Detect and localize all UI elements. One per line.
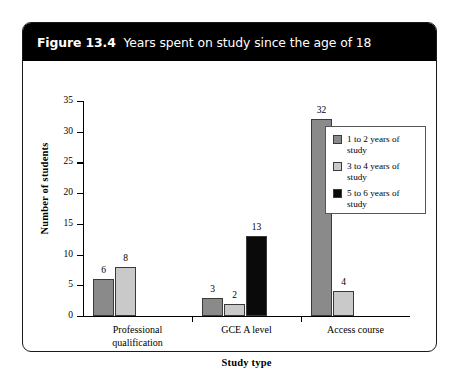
legend-label-line: 5 to 6 years of [347, 188, 421, 199]
y-axis-tick [77, 193, 84, 194]
x-axis-tick [301, 316, 302, 322]
x-category-label: Access course [301, 324, 410, 337]
legend-label: 1 to 2 years ofstudy [347, 134, 421, 155]
y-axis-tick-label: 0 [41, 311, 73, 321]
bar [93, 279, 114, 316]
y-axis-tick-label: 10 [41, 250, 73, 260]
bar [115, 267, 136, 316]
bar-value-label: 13 [240, 223, 273, 233]
y-axis-tick [77, 101, 84, 102]
y-axis-tick [77, 285, 84, 286]
x-category-label: GCE A level [192, 324, 301, 337]
figure-caption-text: Figure 13.4 Years spent on study since t… [37, 35, 371, 50]
x-category-label-line: qualification [83, 337, 192, 350]
legend-entry: 3 to 4 years ofstudy [333, 161, 425, 182]
figure-number: Figure 13.4 [37, 35, 116, 50]
legend-color-swatch [333, 135, 342, 144]
x-axis-label: Study type [83, 357, 410, 368]
bar-value-label: 32 [305, 106, 338, 116]
x-category-label-line: Professional [83, 324, 192, 337]
y-axis-tick [77, 132, 84, 133]
y-axis-tick [77, 162, 84, 163]
bar [333, 291, 354, 316]
legend-label-line: study [347, 199, 421, 210]
x-category-label-line: GCE A level [192, 324, 301, 337]
bar-value-label: 8 [109, 254, 142, 264]
legend-label-line: 1 to 2 years of [347, 134, 421, 145]
legend-label-line: 3 to 4 years of [347, 161, 421, 172]
legend-label: 3 to 4 years ofstudy [347, 161, 421, 182]
figure-frame: Figure 13.4 Years spent on study since t… [22, 22, 437, 352]
y-axis-tick-label: 25 [41, 157, 73, 167]
y-axis-tick-label: 20 [41, 188, 73, 198]
figure-title: Years spent on study since the age of 18 [123, 35, 371, 50]
legend-entry: 5 to 6 years ofstudy [333, 188, 425, 209]
x-category-label: Professionalqualification [83, 324, 192, 349]
legend-color-swatch [333, 162, 342, 171]
y-axis-tick [77, 316, 84, 317]
legend-label-line: study [347, 145, 421, 156]
y-axis-tick-label: 35 [41, 96, 73, 106]
figure-caption-bar: Figure 13.4 Years spent on study since t… [23, 23, 436, 61]
y-axis-tick-label: 5 [41, 280, 73, 290]
legend-color-swatch [333, 189, 342, 198]
y-axis-tick [77, 224, 84, 225]
chart-legend: 1 to 2 years ofstudy3 to 4 years ofstudy… [325, 126, 426, 214]
y-axis-tick-label: 30 [41, 127, 73, 137]
chart-plot-area: Number of students 05101520253035 683213… [23, 61, 438, 353]
y-axis-tick [77, 255, 84, 256]
bar [224, 304, 245, 316]
legend-label: 5 to 6 years ofstudy [347, 188, 421, 209]
legend-entry: 1 to 2 years ofstudy [333, 134, 425, 155]
x-axis-line [83, 316, 410, 317]
y-axis-tick-label: 15 [41, 219, 73, 229]
bar-value-label: 4 [327, 278, 360, 288]
x-axis-tick [192, 316, 193, 322]
bar [246, 236, 267, 316]
legend-label-line: study [347, 172, 421, 183]
x-category-label-line: Access course [301, 324, 410, 337]
bar [202, 298, 223, 316]
